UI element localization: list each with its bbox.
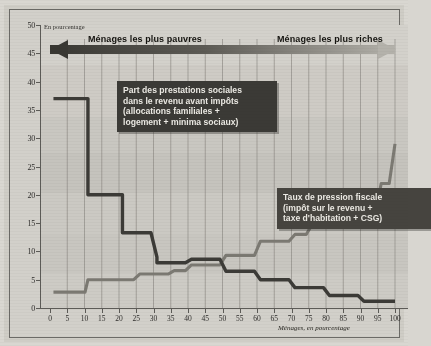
y-axis-tick <box>36 138 40 139</box>
x-axis-tick-label: 30 <box>150 314 158 323</box>
x-axis-tick-label: 0 <box>48 314 52 323</box>
x-axis-tick <box>102 309 103 313</box>
x-axis-tick <box>309 309 310 313</box>
x-axis-tick <box>343 309 344 313</box>
y-axis-tick-label: 20 <box>17 190 35 199</box>
x-axis-tick-label: 60 <box>253 314 261 323</box>
x-axis-tick-label: 80 <box>322 314 330 323</box>
y-axis-tick <box>36 308 40 309</box>
x-axis-tick <box>136 309 137 313</box>
x-axis-tick <box>274 309 275 313</box>
x-axis-tick <box>85 309 86 313</box>
y-axis-tick-label: 10 <box>17 247 35 256</box>
x-axis-tick <box>67 309 68 313</box>
x-axis-tick-label: 75 <box>305 314 313 323</box>
x-axis-tick-label: 95 <box>374 314 382 323</box>
x-axis-tick-label: 55 <box>236 314 244 323</box>
x-axis-tick <box>188 309 189 313</box>
x-axis-tick <box>292 309 293 313</box>
y-axis-tick-label: 0 <box>17 304 35 313</box>
x-axis-tick <box>205 309 206 313</box>
x-axis-tick <box>223 309 224 313</box>
y-axis-tick-label: 30 <box>17 134 35 143</box>
x-axis-tick <box>257 309 258 313</box>
x-axis-tick-label: 5 <box>65 314 69 323</box>
x-axis-tick <box>50 309 51 313</box>
x-axis-tick-label: 40 <box>184 314 192 323</box>
plot-area: 05101520253035404550 0510152025303540455… <box>40 25 408 323</box>
x-axis-tick <box>395 309 396 313</box>
x-axis-tick-label: 20 <box>115 314 123 323</box>
y-axis-tick-label: 45 <box>17 49 35 58</box>
x-axis-tick-label: 65 <box>271 314 279 323</box>
x-axis-tick <box>240 309 241 313</box>
callout-prestations-sociales: Part des prestations sociales dans le re… <box>117 81 277 132</box>
y-axis-tick <box>36 110 40 111</box>
x-axis-tick-label: 15 <box>98 314 106 323</box>
callout-pression-fiscale: Taux de pression fiscale (impôt sur le r… <box>277 188 431 229</box>
band-label-richest: Ménages les plus riches <box>277 34 383 44</box>
x-axis-tick <box>171 309 172 313</box>
y-axis-tick-label: 35 <box>17 105 35 114</box>
y-axis-tick <box>36 195 40 196</box>
y-axis-tick <box>36 53 40 54</box>
x-axis-tick <box>378 309 379 313</box>
x-axis-tick-label: 50 <box>219 314 227 323</box>
y-axis-tick-label: 5 <box>17 275 35 284</box>
x-axis-tick <box>361 309 362 313</box>
y-axis-tick-label: 40 <box>17 77 35 86</box>
x-axis-tick-label: 100 <box>389 314 400 323</box>
x-axis-tick-label: 85 <box>340 314 348 323</box>
y-axis-tick <box>36 251 40 252</box>
x-axis-tick-label: 35 <box>167 314 175 323</box>
x-axis-tick-label: 90 <box>357 314 365 323</box>
x-axis-tick <box>119 309 120 313</box>
x-axis-tick-label: 45 <box>202 314 210 323</box>
y-axis-tick-label: 15 <box>17 219 35 228</box>
x-axis-title: Ménages, en pourcentage <box>278 324 350 332</box>
y-axis-tick-label: 25 <box>17 162 35 171</box>
x-axis-tick-label: 70 <box>288 314 296 323</box>
y-axis-tick <box>36 280 40 281</box>
y-axis-unit-label: En pourcentage <box>44 23 85 30</box>
chart-frame: 05101520253035404550 0510152025303540455… <box>9 9 400 338</box>
x-axis-tick <box>326 309 327 313</box>
y-axis-tick <box>36 25 40 26</box>
chart-svg <box>40 25 408 323</box>
x-axis-tick-label: 10 <box>81 314 89 323</box>
y-axis-tick <box>36 167 40 168</box>
y-axis-tick <box>36 82 40 83</box>
y-axis-tick-label: 50 <box>17 21 35 30</box>
band-label-poorest: Ménages les plus pauvres <box>88 34 202 44</box>
x-axis-tick-label: 25 <box>133 314 141 323</box>
x-axis-tick <box>154 309 155 313</box>
y-axis-tick <box>36 223 40 224</box>
